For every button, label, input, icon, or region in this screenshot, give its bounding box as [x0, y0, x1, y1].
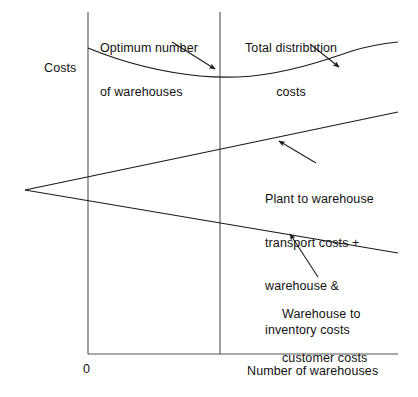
plant-to-warehouse-annotation-line-2: transport costs +: [265, 236, 374, 251]
total-distribution-annotation-line-1: Total distribution: [245, 41, 337, 56]
total-distribution-annotation-line-2: costs: [245, 85, 337, 100]
optimum-annotation-line-1: Optimum number: [100, 41, 198, 56]
distribution-costs-figure: Costs Number of warehouses 0 Optimum num…: [0, 0, 418, 397]
origin-tick-label: 0: [83, 362, 90, 377]
total-distribution-annotation-label: Total distribution costs: [245, 12, 337, 128]
optimum-annotation-label: Optimum number of warehouses: [100, 12, 198, 128]
plant-to-warehouse-annotation-arrow: [279, 141, 316, 163]
plant-to-warehouse-annotation-line-1: Plant to warehouse: [265, 192, 374, 207]
warehouse-to-customer-annotation-line-1: Warehouse to: [282, 307, 367, 322]
optimum-annotation-line-2: of warehouses: [100, 85, 198, 100]
warehouse-to-customer-annotation-line-2: customer costs: [282, 351, 367, 366]
y-axis-label: Costs: [44, 61, 76, 76]
warehouse-to-customer-annotation-label: Warehouse to customer costs: [282, 278, 367, 394]
